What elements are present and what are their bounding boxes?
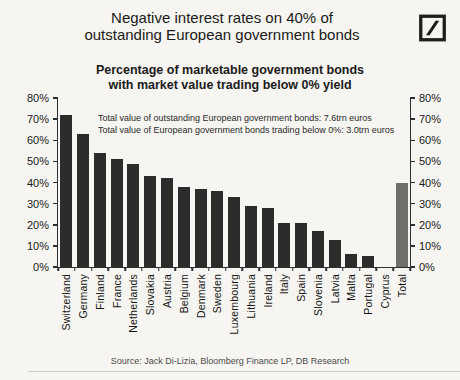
x-label-slot: Netherlands bbox=[125, 274, 142, 362]
y-axis-label-right: 40% bbox=[419, 177, 441, 189]
bar-lithuania bbox=[245, 206, 257, 267]
y-axis-label-right: 60% bbox=[419, 134, 441, 146]
y-axis-label-left: 50% bbox=[27, 155, 49, 167]
x-axis-label: Italy bbox=[278, 274, 290, 294]
x-axis-tick bbox=[175, 267, 177, 271]
x-axis-tick bbox=[292, 267, 294, 271]
x-label-slot: Germany bbox=[75, 274, 92, 362]
bar-slovenia bbox=[312, 231, 324, 267]
y-axis-label-left: 20% bbox=[27, 219, 49, 231]
bar-sweden bbox=[211, 191, 223, 267]
x-label-slot: Finland bbox=[92, 274, 109, 362]
y-axis-label-right: 0% bbox=[419, 261, 435, 273]
x-axis-tick bbox=[325, 267, 327, 271]
x-axis-tick bbox=[225, 267, 227, 271]
y-axis-label-left: 30% bbox=[27, 198, 49, 210]
x-axis-tick bbox=[57, 267, 59, 271]
bar-slot bbox=[326, 98, 343, 267]
x-label-slot: Italy bbox=[276, 274, 293, 362]
x-axis-label: Lithuania bbox=[245, 274, 257, 318]
y-axis-tick-right bbox=[410, 224, 415, 226]
y-axis-label-left: 0% bbox=[33, 261, 49, 273]
y-axis-label-right: 50% bbox=[419, 155, 441, 167]
bar-denmark bbox=[195, 189, 207, 267]
bar-netherlands bbox=[127, 164, 139, 268]
x-axis-label: Sweden bbox=[211, 274, 223, 313]
x-axis-tick bbox=[158, 267, 160, 271]
bar-slot bbox=[309, 98, 326, 267]
y-axis-label-left: 70% bbox=[27, 113, 49, 125]
x-axis-tick bbox=[141, 267, 143, 271]
y-axis-tick-left bbox=[53, 97, 58, 99]
x-label-slot: Sweden bbox=[209, 274, 226, 362]
bar-switzerland bbox=[60, 115, 72, 267]
y-axis-tick-right bbox=[410, 140, 415, 142]
x-label-slot: Denmark bbox=[192, 274, 209, 362]
bar-latvia bbox=[329, 240, 341, 267]
bar-slot bbox=[276, 98, 293, 267]
bar-slot bbox=[75, 98, 92, 267]
bar-slot bbox=[377, 98, 394, 267]
x-axis-label: Latvia bbox=[329, 274, 341, 303]
x-axis-tick bbox=[124, 267, 126, 271]
x-label-slot: Spain bbox=[293, 274, 310, 362]
x-axis-label: Ireland bbox=[262, 274, 274, 308]
bar-slot bbox=[159, 98, 176, 267]
bar-slot bbox=[175, 98, 192, 267]
x-label-slot: Portugal bbox=[360, 274, 377, 362]
y-axis-tick-left bbox=[53, 118, 58, 120]
bar-slot bbox=[142, 98, 159, 267]
y-axis-tick-right bbox=[410, 182, 415, 184]
y-axis-label-right: 70% bbox=[419, 113, 441, 125]
bar-slot bbox=[393, 98, 410, 267]
x-axis-label: Switzerland bbox=[60, 274, 72, 330]
x-axis-label: Malta bbox=[345, 274, 357, 301]
chart-page: Negative interest rates on 40% of outsta… bbox=[0, 0, 460, 380]
x-axis-label: Cyprus bbox=[379, 274, 391, 308]
x-axis-label: Portugal bbox=[362, 274, 374, 315]
x-axis-tick bbox=[376, 267, 378, 271]
x-label-slot: Slovakia bbox=[142, 274, 159, 362]
chart-title: Percentage of marketable government bond… bbox=[0, 63, 460, 93]
x-axis-tick bbox=[258, 267, 260, 271]
y-axis-tick-left bbox=[53, 161, 58, 163]
y-axis-tick-left bbox=[53, 224, 58, 226]
x-axis-tick bbox=[342, 267, 344, 271]
y-axis-label-right: 30% bbox=[419, 198, 441, 210]
x-label-slot: Total bbox=[393, 274, 410, 362]
y-axis-tick-right bbox=[410, 245, 415, 247]
y-axis-tick-right bbox=[410, 161, 415, 163]
y-axis-label-left: 40% bbox=[27, 177, 49, 189]
bar-belgium bbox=[178, 187, 190, 267]
y-axis-label-left: 80% bbox=[27, 92, 49, 104]
plot-area: Total value of outstanding European gove… bbox=[57, 98, 411, 268]
bar-finland bbox=[94, 153, 106, 267]
bar-slot bbox=[242, 98, 259, 267]
x-axis-label: Slovakia bbox=[144, 274, 156, 315]
x-label-slot: Switzerland bbox=[58, 274, 75, 362]
y-axis-tick-right bbox=[410, 97, 415, 99]
x-axis-label: Netherlands bbox=[127, 274, 139, 333]
bar-slot bbox=[226, 98, 243, 267]
x-axis-tick bbox=[208, 267, 210, 271]
deutsche-bank-logo-icon bbox=[419, 14, 446, 42]
y-axis-tick-left bbox=[53, 182, 58, 184]
bar-germany bbox=[77, 134, 89, 267]
bar-slot bbox=[192, 98, 209, 267]
x-axis-tick bbox=[392, 267, 394, 271]
bar-total bbox=[396, 183, 408, 268]
x-axis-label: Finland bbox=[94, 274, 106, 310]
y-axis-tick-left bbox=[53, 245, 58, 247]
bar-slot bbox=[293, 98, 310, 267]
bar-italy bbox=[278, 223, 290, 267]
y-axis-label-left: 60% bbox=[27, 134, 49, 146]
x-label-slot: Luxembourg bbox=[226, 274, 243, 362]
page-title-line1: Negative interest rates on 40% of bbox=[12, 9, 432, 26]
x-label-slot: Latvia bbox=[326, 274, 343, 362]
x-axis-label: Luxembourg bbox=[228, 274, 240, 334]
x-axis-tick bbox=[108, 267, 110, 271]
bar-luxembourg bbox=[228, 197, 240, 267]
x-axis-tick bbox=[191, 267, 193, 271]
x-axis-label: France bbox=[111, 274, 123, 308]
y-axis-label-right: 20% bbox=[419, 219, 441, 231]
